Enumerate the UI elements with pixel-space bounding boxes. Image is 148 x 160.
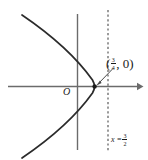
vertex-fraction: 34 bbox=[111, 57, 116, 71]
origin-label: O bbox=[63, 87, 70, 97]
vertex-fraction-numerator: 3 bbox=[111, 57, 116, 63]
parabola-figure: O (34, 0) x =32 bbox=[0, 0, 148, 160]
vertex-coordinate-label: (34, 0) bbox=[106, 57, 134, 71]
vertex-open-paren: ( bbox=[106, 56, 110, 71]
directrix-fraction-denominator: 2 bbox=[122, 141, 127, 147]
vertex-close-paren: , 0) bbox=[116, 56, 133, 71]
vertex-dot bbox=[92, 84, 96, 88]
directrix-prefix: x = bbox=[111, 135, 122, 144]
directrix-fraction: 32 bbox=[122, 133, 127, 147]
x-axis-arrowhead bbox=[137, 83, 144, 90]
vertex-fraction-denominator: 4 bbox=[111, 65, 116, 71]
directrix-equation-label: x =32 bbox=[111, 133, 128, 147]
directrix-fraction-numerator: 3 bbox=[122, 133, 127, 139]
